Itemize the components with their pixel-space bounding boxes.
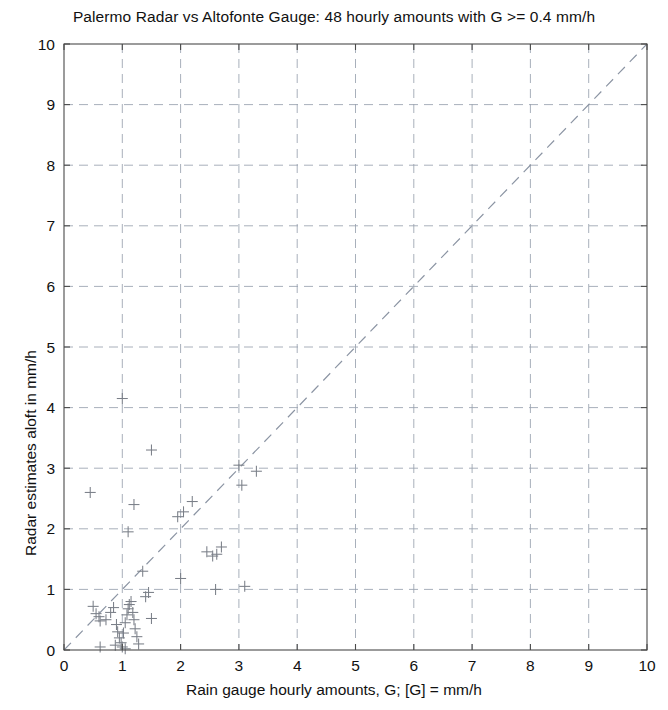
chart-figure: Palermo Radar vs Altofonte Gauge: 48 hou… [0,0,668,710]
data-point-markers [85,393,262,654]
x-tick-label: 0 [60,657,69,674]
y-tick-label: 2 [46,520,55,537]
y-tick-label: 5 [46,339,55,356]
y-tick-label: 1 [46,581,55,598]
y-tick-label: 7 [46,217,55,234]
x-tick-label: 2 [176,657,185,674]
y-tick-label: 0 [46,642,55,659]
x-tick-label: 7 [468,657,477,674]
y-tick-label: 10 [38,36,56,53]
y-tick-label: 9 [46,96,55,113]
x-tick-label: 10 [638,657,656,674]
y-tick-label: 8 [46,157,55,174]
x-tick-label: 8 [526,657,535,674]
scatter-plot-canvas: 012345678910 012345678910 [0,0,668,710]
x-tick-label: 6 [409,657,418,674]
x-tick-label: 5 [351,657,360,674]
x-tick-label: 4 [293,657,302,674]
y-tick-label: 4 [46,399,55,416]
x-tick-label: 9 [584,657,593,674]
y-tick-label: 6 [46,278,55,295]
x-tick-label: 1 [118,657,127,674]
x-axis-tick-labels: 012345678910 [60,657,656,674]
y-tick-label: 3 [46,460,55,477]
y-axis-tick-labels: 012345678910 [38,36,56,659]
x-tick-label: 3 [235,657,244,674]
